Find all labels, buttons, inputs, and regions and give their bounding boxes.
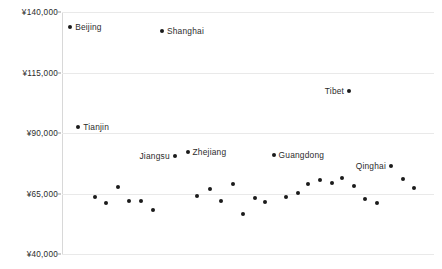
y-axis-tick-label: ¥90,000 <box>27 129 58 138</box>
y-axis-tick-labels: ¥140,000¥115,000¥90,000¥65,000¥40,000 <box>0 0 58 269</box>
data-point[interactable] <box>151 208 155 212</box>
data-point[interactable] <box>375 201 379 205</box>
data-point-label-guangdong: Guangdong <box>279 150 325 160</box>
data-point[interactable] <box>284 195 288 199</box>
data-point[interactable] <box>208 187 212 191</box>
y-axis-tick-label: ¥140,000 <box>22 8 58 17</box>
data-point[interactable] <box>93 195 97 199</box>
data-point[interactable] <box>231 182 235 186</box>
data-point-beijing[interactable] <box>68 25 72 29</box>
data-point-qinghai[interactable] <box>389 164 393 168</box>
scatter-chart: ¥140,000¥115,000¥90,000¥65,000¥40,000 Be… <box>0 0 442 269</box>
gridline <box>62 194 434 195</box>
y-axis-tick-label: ¥65,000 <box>27 189 58 198</box>
data-point[interactable] <box>318 178 322 182</box>
data-point-label-tibet: Tibet <box>325 86 344 96</box>
y-axis-tick-mark <box>56 193 61 194</box>
data-point[interactable] <box>263 200 267 204</box>
data-point[interactable] <box>340 176 344 180</box>
data-point-tibet[interactable] <box>347 89 351 93</box>
data-point-shanghai[interactable] <box>160 29 164 33</box>
data-point-guangdong[interactable] <box>272 153 276 157</box>
data-point-label-jiangsu: Jiangsu <box>139 151 169 161</box>
data-point[interactable] <box>127 199 131 203</box>
data-point[interactable] <box>306 182 310 186</box>
data-point-jiangsu[interactable] <box>173 154 177 158</box>
data-point-label-qinghai: Qinghai <box>356 161 386 171</box>
data-point[interactable] <box>195 194 199 198</box>
data-point-label-beijing: Beijing <box>75 22 102 32</box>
data-point[interactable] <box>401 177 405 181</box>
y-axis-tick-mark <box>56 254 61 255</box>
data-point-label-zhejiang: Zhejiang <box>193 147 227 157</box>
y-axis-tick-label: ¥40,000 <box>27 250 58 259</box>
y-axis-tick-label: ¥115,000 <box>22 68 58 77</box>
data-point[interactable] <box>139 199 143 203</box>
data-point-tianjin[interactable] <box>76 125 80 129</box>
plot-area: BeijingTianjinShanghaiJiangsuZhejiangGua… <box>62 12 434 254</box>
data-point[interactable] <box>241 212 245 216</box>
data-point[interactable] <box>363 197 367 201</box>
gridline <box>62 12 434 13</box>
data-point-label-tianjin: Tianjin <box>83 122 109 132</box>
gridline <box>62 133 434 134</box>
data-point[interactable] <box>330 181 334 185</box>
gridline <box>62 254 434 255</box>
gridline <box>62 73 434 74</box>
data-point[interactable] <box>412 186 416 190</box>
data-point-label-shanghai: Shanghai <box>167 26 204 36</box>
data-point[interactable] <box>253 196 257 200</box>
data-point[interactable] <box>219 199 223 203</box>
data-point[interactable] <box>352 184 356 188</box>
data-point-zhejiang[interactable] <box>186 150 190 154</box>
y-axis-tick-mark <box>56 12 61 13</box>
y-axis-tick-mark <box>56 133 61 134</box>
data-point[interactable] <box>296 191 300 195</box>
data-point[interactable] <box>104 201 108 205</box>
data-point[interactable] <box>116 185 120 189</box>
y-axis-tick-mark <box>56 72 61 73</box>
